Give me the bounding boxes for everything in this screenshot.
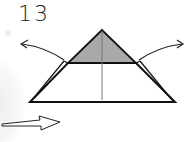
origami-diagram <box>0 0 196 142</box>
curved-arrow-right-icon <box>139 40 183 60</box>
curved-arrow-left-icon <box>21 40 64 60</box>
push-arrow-icon <box>2 116 60 130</box>
